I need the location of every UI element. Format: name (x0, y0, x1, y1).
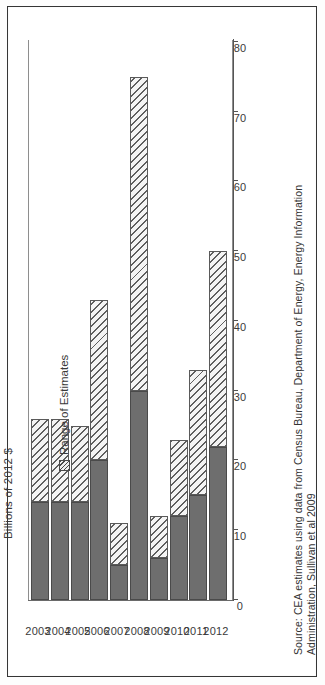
bar-segment-2012-range (209, 251, 227, 446)
value-tick-label: 30 (234, 391, 247, 403)
bar-segment-2010-range (170, 440, 188, 517)
bar-chart: 80706050403020100 2003200420052006200720… (22, 21, 254, 621)
source-note: Source: CEA estimates using data from Ce… (292, 25, 318, 655)
chart-rotation-wrapper: 80706050403020100 2003200420052006200720… (22, 21, 254, 621)
bar-segment-2003-range (31, 419, 49, 503)
bar-segment-2007-low (110, 565, 128, 600)
value-tick-label: 40 (234, 321, 247, 333)
source-line-2: Administration, Sullivan et al 2009 (305, 25, 318, 655)
bar-segment-2009-range (150, 516, 168, 558)
bar-2007 (110, 523, 128, 600)
bar-segment-2009-low (150, 558, 168, 600)
bar-2003 (31, 419, 49, 600)
value-axis-title: Billions of 2012 $ (2, 399, 14, 539)
bar-segment-2011-low (189, 495, 207, 600)
bar-segment-2010-low (170, 516, 188, 600)
bar-2010 (170, 440, 188, 600)
value-tick-label: 0 (237, 600, 243, 612)
bar-2008 (130, 77, 148, 600)
chart-legend: Range of Estimates (58, 355, 70, 471)
value-tick-label: 60 (234, 182, 247, 194)
category-label-2012: 2012 (196, 625, 236, 637)
hatched-swatch-icon (59, 460, 70, 471)
bar-segment-2012-low (209, 447, 227, 600)
bar-2012 (209, 251, 227, 600)
legend-label: Range of Estimates (58, 355, 70, 455)
value-tick-label: 70 (234, 112, 247, 124)
bar-2009 (150, 516, 168, 600)
value-tick-label: 80 (234, 42, 247, 54)
value-tick-label: 20 (234, 461, 247, 473)
source-line-1: Source: CEA estimates using data from Ce… (292, 25, 305, 655)
bar-segment-2008-range (130, 77, 148, 391)
bar-segment-2004-low (51, 502, 69, 600)
value-tick-label: 10 (234, 530, 247, 542)
bar-segment-2005-low (71, 502, 89, 600)
bar-segment-2006-low (90, 461, 108, 601)
bar-segment-2005-range (71, 426, 89, 503)
bar-2005 (71, 426, 89, 600)
bar-segment-2007-range (110, 523, 128, 565)
bar-segment-2008-low (130, 391, 148, 600)
bar-segment-2003-low (31, 502, 49, 600)
bar-2006 (90, 300, 108, 600)
bar-2011 (189, 370, 207, 600)
figure-page: 80706050403020100 2003200420052006200720… (0, 0, 325, 685)
value-tick-label: 50 (234, 251, 247, 263)
bar-segment-2006-range (90, 300, 108, 460)
bar-segment-2011-range (189, 370, 207, 496)
zero-baseline (28, 600, 234, 601)
figure-border: 80706050403020100 2003200420052006200720… (7, 6, 317, 677)
